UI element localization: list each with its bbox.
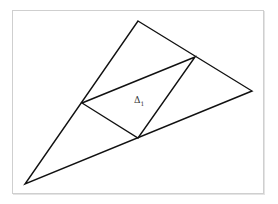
delta-label: Δ1 <box>134 95 144 107</box>
delta-subscript: 1 <box>141 100 145 107</box>
triangle-diagram: Δ1 <box>0 0 278 204</box>
